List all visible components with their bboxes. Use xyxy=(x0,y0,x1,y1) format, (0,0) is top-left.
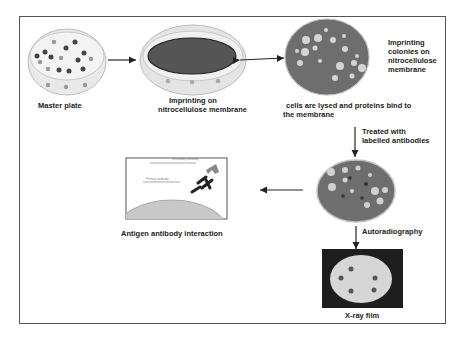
lysis-label-line2: the membrane xyxy=(283,110,334,119)
imprint-label-line2: nitrocellulose membrane xyxy=(150,105,255,114)
interaction-inset xyxy=(116,158,228,264)
primary-antibody-label: Primary antibody xyxy=(146,178,169,182)
colonies-label-line2: colonies on xyxy=(388,47,430,56)
colonies-label-line4: membrane xyxy=(388,65,426,74)
arrow-imprint-to-colonies xyxy=(240,58,284,60)
antibodies-label-line2: labelled antibodies xyxy=(362,136,430,145)
lysis-label-line1: cells are lysed and proteins bind to xyxy=(286,101,411,110)
xray-film-label: X-ray film xyxy=(345,311,379,320)
master-plate-label: Master plate xyxy=(38,101,82,110)
xray-film xyxy=(322,249,403,308)
autoradiography-label: Autoradiography xyxy=(362,227,422,236)
imprint-label-line1: Imprinting on xyxy=(152,96,234,105)
colonies-label-line1: Imprinting xyxy=(388,38,425,47)
interaction-label: Antigen antibody interaction xyxy=(121,229,223,238)
imprint-plate xyxy=(140,25,246,95)
colonies-plate xyxy=(285,19,369,95)
secondary-antibody-label: Secondary antibody xyxy=(172,158,199,162)
master-plate xyxy=(28,29,106,95)
antibodies-label-line1: Treated with xyxy=(362,127,406,136)
antibody-plate xyxy=(317,160,395,222)
colonies-label-line3: nitrocellulose xyxy=(388,56,437,65)
